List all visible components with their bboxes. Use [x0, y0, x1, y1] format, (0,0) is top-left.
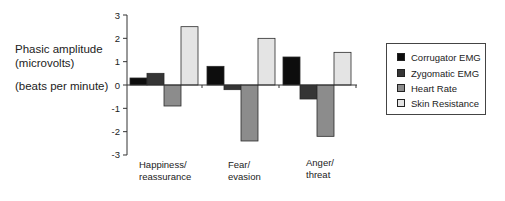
category-label-line: evasion — [228, 171, 261, 183]
legend-label: Heart Rate — [411, 83, 457, 94]
legend-item-corrugator: Corrugator EMG — [397, 51, 481, 63]
category-label-line: Anger/ — [306, 157, 334, 169]
y-tick-label: -2 — [112, 126, 120, 137]
legend-label: Skin Resistance — [411, 98, 479, 109]
legend-label: Corrugator EMG — [411, 52, 481, 63]
y-tick-label: 0 — [115, 80, 120, 91]
bar — [258, 38, 275, 85]
bar — [224, 85, 241, 90]
y-tick-label: 1 — [115, 56, 120, 67]
legend-item-skin-resistance: Skin Resistance — [397, 97, 479, 109]
y-tick-label: 3 — [115, 10, 120, 21]
category-label-happiness: Happiness/ reassurance — [139, 159, 191, 183]
bar — [241, 85, 258, 141]
y-tick-label: -3 — [112, 149, 120, 160]
y-tick-label: 2 — [115, 33, 120, 44]
bar — [181, 27, 198, 85]
bar — [317, 85, 334, 136]
bars — [130, 27, 351, 141]
legend-swatch-icon — [397, 84, 405, 92]
y-tick-label: -1 — [112, 103, 120, 114]
legend-item-zygomatic: Zygomatic EMG — [397, 67, 479, 79]
legend: Corrugator EMG Zygomatic EMG Heart Rate … — [386, 43, 486, 115]
bar — [130, 78, 147, 85]
category-label-anger: Anger/ threat — [306, 157, 334, 181]
bar — [334, 52, 351, 85]
category-label-line: Fear/ — [228, 159, 261, 171]
legend-swatch-icon — [397, 53, 405, 61]
legend-swatch-icon — [397, 69, 405, 77]
category-label-fear: Fear/ evasion — [228, 159, 261, 183]
bar — [147, 73, 164, 85]
legend-swatch-icon — [397, 99, 405, 107]
y-axis: 3210-1-2-3 — [112, 10, 127, 161]
bar — [300, 85, 317, 99]
legend-item-heart-rate: Heart Rate — [397, 82, 457, 94]
category-label-line: reassurance — [139, 171, 191, 183]
bar — [207, 66, 224, 85]
legend-label: Zygomatic EMG — [411, 68, 479, 79]
bar — [283, 57, 300, 85]
bar — [164, 85, 181, 106]
category-label-line: Happiness/ — [139, 159, 191, 171]
category-label-line: threat — [306, 169, 334, 181]
